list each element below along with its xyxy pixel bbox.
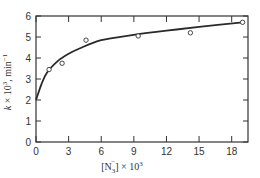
x-tick-label: 18	[226, 146, 238, 157]
kinetics-chart: 0123456 0369121518 [N3−] × 103 k × 103, …	[0, 0, 260, 178]
data-point	[240, 20, 244, 24]
data-point	[188, 31, 192, 35]
data-point	[60, 61, 64, 65]
x-tick-label: 3	[66, 146, 72, 157]
y-tick-label: 1	[25, 116, 31, 127]
data-points	[47, 20, 245, 72]
y-tick-label: 3	[25, 74, 31, 85]
x-tick-label: 0	[33, 146, 39, 157]
x-axis-ticks: 0369121518	[33, 16, 237, 157]
data-point	[136, 34, 140, 38]
y-tick-label: 2	[25, 95, 31, 106]
y-axis-ticks: 0123456	[25, 11, 248, 148]
data-point	[84, 38, 88, 42]
x-tick-label: 6	[98, 146, 104, 157]
data-point	[47, 67, 51, 71]
x-tick-label: 12	[161, 146, 173, 157]
y-axis-label: k × 103, min−1	[1, 53, 13, 110]
y-tick-label: 6	[25, 11, 31, 22]
y-tick-label: 4	[25, 53, 31, 64]
y-tick-label: 5	[25, 32, 31, 43]
y-tick-label: 0	[25, 137, 31, 148]
plot-frame	[36, 16, 248, 142]
x-tick-label: 9	[131, 146, 137, 157]
plot-area	[36, 16, 248, 142]
x-axis-label: [N3−] × 103	[101, 158, 143, 175]
x-tick-label: 15	[194, 146, 206, 157]
